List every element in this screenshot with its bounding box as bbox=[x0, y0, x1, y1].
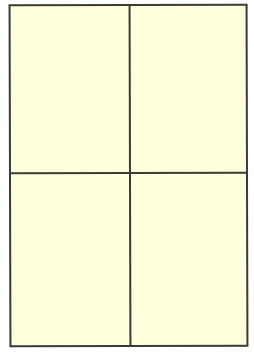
quadrant-bottom-right bbox=[131, 174, 246, 345]
quadrant-top-left bbox=[11, 6, 129, 172]
quadrant-top-right bbox=[131, 6, 246, 172]
quadrant-bottom-left bbox=[11, 174, 129, 345]
quadrant-grid bbox=[9, 4, 249, 348]
